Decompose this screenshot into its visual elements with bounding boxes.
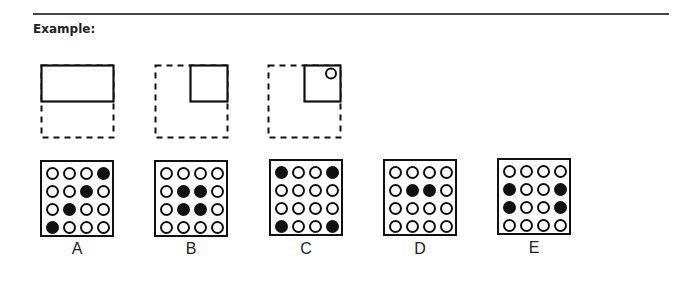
empty-circle-icon bbox=[211, 167, 224, 180]
empty-circle-icon bbox=[554, 165, 567, 178]
empty-circle-icon bbox=[423, 202, 436, 215]
filled-circle-icon bbox=[194, 185, 207, 198]
empty-circle-icon bbox=[211, 221, 224, 234]
empty-circle-icon bbox=[46, 203, 59, 216]
filled-circle-icon bbox=[177, 203, 190, 216]
empty-circle-icon bbox=[46, 167, 59, 180]
filled-circle-icon bbox=[503, 201, 516, 214]
empty-circle-icon bbox=[520, 165, 533, 178]
filled-circle-icon bbox=[80, 185, 93, 198]
filled-circle-icon bbox=[63, 203, 76, 216]
empty-circle-icon bbox=[160, 185, 173, 198]
option-a-grid[interactable] bbox=[40, 160, 114, 237]
filled-circle-icon bbox=[326, 166, 339, 179]
empty-circle-icon bbox=[292, 220, 305, 233]
empty-circle-icon bbox=[211, 185, 224, 198]
empty-circle-icon bbox=[80, 203, 93, 216]
empty-circle-icon bbox=[326, 184, 339, 197]
empty-circle-icon bbox=[554, 219, 567, 232]
empty-circle-icon bbox=[275, 202, 288, 215]
empty-circle-icon bbox=[194, 167, 207, 180]
empty-circle-icon bbox=[63, 221, 76, 234]
empty-circle-icon bbox=[309, 202, 322, 215]
option-d-label: D bbox=[410, 240, 430, 258]
empty-circle-icon bbox=[275, 184, 288, 197]
empty-circle-icon bbox=[537, 219, 550, 232]
option-a-label: A bbox=[67, 240, 87, 258]
sequence-figure-2 bbox=[154, 64, 229, 139]
empty-circle-icon bbox=[406, 166, 419, 179]
empty-circle-icon bbox=[292, 202, 305, 215]
top-divider bbox=[33, 13, 669, 15]
empty-circle-icon bbox=[80, 167, 93, 180]
empty-circle-icon bbox=[520, 219, 533, 232]
option-b-label: B bbox=[181, 240, 201, 258]
filled-circle-icon bbox=[46, 221, 59, 234]
empty-circle-icon bbox=[160, 167, 173, 180]
empty-circle-icon bbox=[520, 201, 533, 214]
option-e-label: E bbox=[524, 239, 544, 257]
empty-circle-icon bbox=[440, 220, 453, 233]
option-b-grid[interactable] bbox=[154, 160, 228, 237]
sequence-figure-3 bbox=[267, 64, 342, 139]
empty-circle-icon bbox=[406, 202, 419, 215]
empty-circle-icon bbox=[440, 166, 453, 179]
empty-circle-icon bbox=[503, 219, 516, 232]
empty-circle-icon bbox=[389, 202, 402, 215]
empty-circle-icon bbox=[423, 220, 436, 233]
option-e-grid[interactable] bbox=[497, 158, 571, 235]
empty-circle-icon bbox=[389, 166, 402, 179]
empty-circle-icon bbox=[160, 221, 173, 234]
empty-circle-icon bbox=[80, 221, 93, 234]
empty-circle-icon bbox=[97, 221, 110, 234]
empty-circle-icon bbox=[97, 185, 110, 198]
empty-circle-icon bbox=[423, 166, 436, 179]
empty-circle-icon bbox=[211, 203, 224, 216]
empty-circle-icon bbox=[177, 167, 190, 180]
filled-circle-icon bbox=[275, 166, 288, 179]
option-c-label: C bbox=[296, 240, 316, 258]
option-c-grid[interactable] bbox=[269, 159, 343, 236]
empty-circle-icon bbox=[309, 166, 322, 179]
empty-circle-icon bbox=[389, 220, 402, 233]
empty-circle-icon bbox=[63, 167, 76, 180]
empty-circle-icon bbox=[309, 184, 322, 197]
empty-circle-icon bbox=[389, 184, 402, 197]
empty-circle-icon bbox=[537, 183, 550, 196]
filled-circle-icon bbox=[423, 184, 436, 197]
empty-circle-icon bbox=[520, 183, 533, 196]
filled-circle-icon bbox=[97, 167, 110, 180]
empty-circle-icon bbox=[46, 185, 59, 198]
empty-circle-icon bbox=[177, 221, 190, 234]
filled-circle-icon bbox=[177, 185, 190, 198]
option-d-grid[interactable] bbox=[383, 159, 457, 236]
filled-circle-icon bbox=[554, 183, 567, 196]
empty-circle-icon bbox=[292, 166, 305, 179]
empty-circle-icon bbox=[326, 202, 339, 215]
filled-circle-icon bbox=[275, 220, 288, 233]
filled-circle-icon bbox=[554, 201, 567, 214]
empty-circle-icon bbox=[160, 203, 173, 216]
filled-circle-icon bbox=[194, 203, 207, 216]
filled-circle-icon bbox=[503, 183, 516, 196]
empty-circle-icon bbox=[440, 202, 453, 215]
empty-circle-icon bbox=[194, 221, 207, 234]
empty-circle-icon bbox=[292, 184, 305, 197]
empty-circle-icon bbox=[537, 165, 550, 178]
empty-circle-icon bbox=[406, 220, 419, 233]
example-heading: Example: bbox=[33, 22, 95, 36]
filled-circle-icon bbox=[406, 184, 419, 197]
sequence-figure-1 bbox=[40, 64, 115, 139]
empty-circle-icon bbox=[309, 220, 322, 233]
empty-circle-icon bbox=[63, 185, 76, 198]
filled-circle-icon bbox=[326, 220, 339, 233]
empty-circle-icon bbox=[503, 165, 516, 178]
empty-circle-icon bbox=[440, 184, 453, 197]
empty-circle-icon bbox=[97, 203, 110, 216]
empty-circle-icon bbox=[537, 201, 550, 214]
